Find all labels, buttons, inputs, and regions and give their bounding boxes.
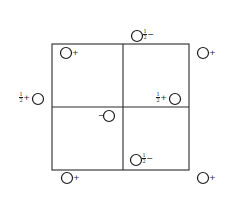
- atom-label-a3: +: [209, 49, 216, 57]
- atom-label-a6: −: [98, 112, 105, 120]
- atom-circle-a9: [198, 173, 209, 184]
- atom-circle-a8: [62, 173, 73, 184]
- atom-circle-a5: [170, 94, 181, 105]
- atom-circle-a6: [104, 111, 115, 122]
- atom-label-a1: +: [72, 49, 79, 57]
- atom-label-a2: 1 2 −: [143, 29, 154, 40]
- atom-circle-a3: [198, 48, 209, 59]
- atom-label-a5: 1 2 +: [156, 92, 167, 103]
- sign-plus: +: [209, 48, 216, 57]
- atom-circle-a1: [61, 48, 72, 59]
- atom-label-a4: 1 2 +: [19, 92, 30, 103]
- atom-label-a7: 1 2 −: [142, 153, 153, 164]
- sign-plus: +: [72, 48, 79, 57]
- symmetry-diagram: [0, 0, 230, 206]
- sign-minus: −: [98, 111, 105, 120]
- atom-circle-a2: [132, 31, 143, 42]
- atom-label-a9: +: [209, 174, 216, 182]
- atom-circle-a4: [33, 94, 44, 105]
- sign-minus: −: [147, 30, 154, 39]
- sign-plus: +: [209, 173, 216, 182]
- sign-plus: +: [73, 173, 80, 182]
- sign-minus: −: [146, 154, 153, 163]
- sign-plus: +: [160, 93, 167, 102]
- sign-plus: +: [23, 93, 30, 102]
- atom-label-a8: +: [73, 174, 80, 182]
- atom-circle-a7: [131, 155, 142, 166]
